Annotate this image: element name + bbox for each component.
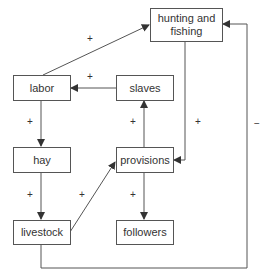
node-label: hay [33, 154, 51, 167]
node-label: slaves [129, 82, 160, 95]
node-label: provisions [120, 154, 170, 167]
sign-provisions-slaves: + [130, 116, 136, 127]
node-slaves: slaves [116, 75, 174, 101]
sign-livestock-provisions: + [79, 189, 85, 200]
node-label: hunting and fishing [151, 12, 222, 38]
node-labor: labor [13, 75, 71, 101]
node-hay: hay [13, 147, 71, 173]
sign-hunting-provisions: + [195, 116, 201, 127]
node-livestock: livestock [13, 220, 71, 245]
node-label: followers [123, 226, 166, 239]
edge-hunting-provisions [174, 41, 185, 160]
edge-livestock-provisions [70, 162, 115, 232]
sign-slaves-labor: + [87, 71, 93, 82]
edge-labor-hunting [43, 25, 149, 75]
sign-provisions-followers: + [130, 189, 136, 200]
sign-hay-livestock: + [27, 189, 33, 200]
sign-labor-hay: + [27, 116, 33, 127]
node-hunting-and-fishing: hunting and fishing [150, 8, 223, 42]
node-label: livestock [21, 226, 63, 239]
causal-loop-diagram: hunting and fishing labor slaves hay pro… [0, 0, 265, 277]
node-provisions: provisions [116, 147, 174, 173]
sign-livestock-hunting: − [254, 118, 260, 129]
node-followers: followers [116, 220, 174, 245]
sign-labor-hunting: + [87, 33, 93, 44]
node-label: labor [30, 82, 54, 95]
